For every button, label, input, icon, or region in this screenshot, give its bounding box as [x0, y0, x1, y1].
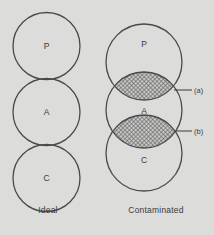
- annotation-b: (b): [174, 127, 204, 136]
- ideal-circle-a-label: A: [44, 107, 50, 117]
- annotation-label-a: (a): [194, 86, 204, 95]
- caption-contaminated: Contaminated: [104, 205, 208, 215]
- annotation-label-b: (b): [194, 127, 204, 136]
- venn-diagram-figure: P A C P A C (a): [0, 0, 214, 235]
- diagram-canvas: P A C P A C (a): [0, 0, 214, 235]
- panel-contaminated: P A C: [106, 24, 182, 191]
- ideal-circle-p-label: P: [44, 41, 50, 51]
- contaminated-circle-c-label: C: [141, 155, 147, 165]
- contaminated-circle-p-label: P: [141, 39, 147, 49]
- contaminated-circle-a-label: A: [141, 106, 147, 116]
- ideal-circle-c-label: C: [43, 173, 49, 183]
- caption-ideal: Ideal: [0, 205, 96, 215]
- panel-ideal: P A C: [13, 13, 80, 212]
